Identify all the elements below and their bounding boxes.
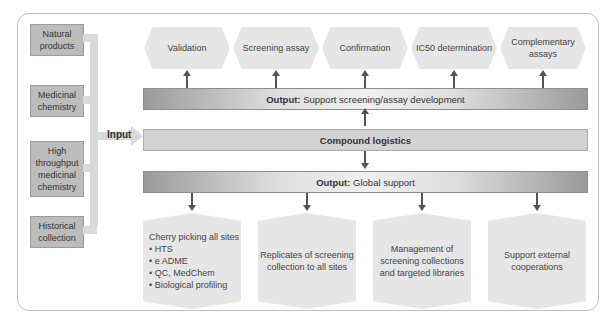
bullet-item: Biological profiling <box>149 279 239 291</box>
input-arrow-icon <box>131 126 143 146</box>
connector <box>83 226 97 234</box>
output-global-support-bar: Output: Global support <box>143 171 588 193</box>
arrow-down-icon <box>306 193 308 207</box>
box-replicates: Replicates of screening collection to al… <box>258 213 356 309</box>
bullet-item: HTS <box>149 243 239 255</box>
input-ht-medicinal-chemistry: High throughput medicinal chemistry <box>30 141 84 197</box>
arrow-down-icon <box>191 193 193 207</box>
box-complementary-assays: Complementary assays <box>500 27 586 69</box>
box-confirmation: Confirmation <box>322 27 408 69</box>
arrow-up-icon <box>364 74 366 88</box>
arrow-down-icon <box>536 193 538 207</box>
arrow-up-icon <box>453 74 455 88</box>
box-external-cooperations: Support external cooperations <box>488 213 586 309</box>
output-text: Support screening/assay development <box>303 94 465 105</box>
box-cherry-picking: Cherry picking all sites HTS e ADME QC, … <box>143 213 241 309</box>
box-management: Management of screening collections and … <box>373 213 471 309</box>
arrow-down-icon <box>421 193 423 207</box>
box-ic50: IC50 determination <box>411 27 497 69</box>
output-prefix: Output: <box>266 94 300 105</box>
compound-logistics-bar: Compound logistics <box>143 129 588 151</box>
input-natural-products: Natural products <box>30 24 84 56</box>
input-trunk <box>90 34 98 226</box>
bullet-item: QC, MedChem <box>149 267 239 279</box>
arrow-up-icon <box>275 74 277 88</box>
arrow-up-icon <box>364 112 366 126</box>
arrow-down-icon <box>364 151 366 165</box>
output-prefix: Output: <box>316 177 350 188</box>
box-screening-assay: Screening assay <box>233 27 319 69</box>
box-validation: Validation <box>144 27 230 69</box>
box-title: Cherry picking all sites <box>149 231 239 243</box>
output-support-screening-bar: Output: Support screening/assay developm… <box>143 88 588 110</box>
input-label: Input <box>107 129 131 140</box>
arrow-up-icon <box>186 74 188 88</box>
input-medicinal-chemistry: Medicinal chemistry <box>30 85 84 117</box>
bullet-item: e ADME <box>149 255 239 267</box>
arrow-up-icon <box>542 74 544 88</box>
output-text: Global support <box>353 177 415 188</box>
input-historical-collection: Historical collection <box>30 216 84 248</box>
